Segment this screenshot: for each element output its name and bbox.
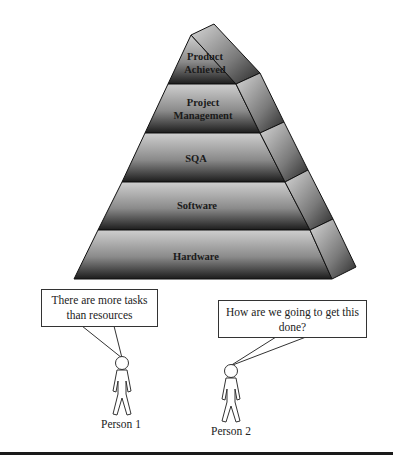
- speech-tail-person-2: [230, 337, 306, 366]
- person-2-label: Person 2: [211, 425, 251, 437]
- tier-label: Software: [177, 200, 217, 211]
- tier-label: Hardware: [173, 251, 219, 262]
- tier-label: Project: [187, 97, 220, 108]
- pyramid-diagram: Product Achieved Project Management SQA …: [0, 0, 393, 466]
- person-1-label: Person 1: [101, 418, 141, 430]
- person-2-figure: [222, 365, 240, 423]
- tier-label: Management: [174, 110, 233, 121]
- speech-bubble-person-1: There are more tasks than resources: [41, 289, 158, 327]
- speech-text: How are we going to get this done?: [226, 306, 359, 333]
- tier-label: SQA: [185, 153, 207, 164]
- tier-label: Achieved: [184, 64, 226, 75]
- speech-tail-person-1: [82, 326, 122, 358]
- person-body-icon: [222, 378, 240, 422]
- tier-product-achieved: Product Achieved: [168, 24, 260, 84]
- person-body-icon: [113, 370, 131, 415]
- speech-bubble-person-2: How are we going to get this done?: [218, 300, 367, 338]
- tier-label: Product: [187, 51, 223, 62]
- person-head-icon: [225, 365, 238, 378]
- person-head-icon: [116, 357, 129, 370]
- person-1-figure: [113, 357, 131, 416]
- bottom-rule: [0, 452, 393, 455]
- speech-text: There are more tasks than resources: [51, 294, 147, 321]
